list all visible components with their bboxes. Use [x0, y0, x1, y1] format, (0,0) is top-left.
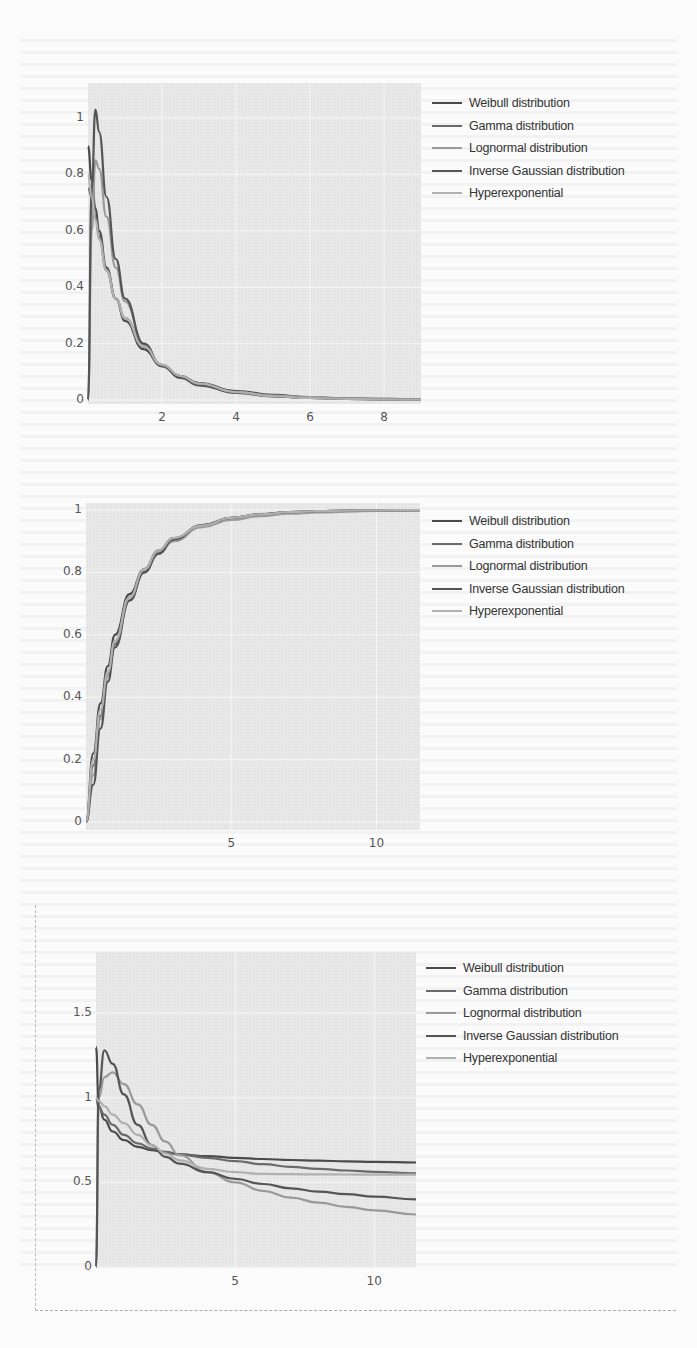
x-tick-label: 4: [221, 410, 251, 424]
chart-1-legend: Weibull distribution Gamma distribution …: [432, 92, 624, 205]
plot-svg: [86, 503, 420, 830]
y-tick-label: 0.4: [52, 689, 82, 703]
plot-area[interactable]: [86, 503, 420, 830]
legend-label: Lognormal distribution: [463, 1006, 582, 1020]
legend-item-hyperexponential[interactable]: Hyperexponential: [426, 1047, 618, 1070]
plot-area[interactable]: [96, 952, 416, 1268]
legend-line-icon: [426, 990, 456, 992]
y-tick-label: 1: [52, 502, 82, 516]
series-line-inverse-gaussian-distribution[interactable]: [88, 110, 421, 401]
y-tick-label: 1.5: [62, 1005, 92, 1019]
legend-item-inverse-gaussian[interactable]: Inverse Gaussian distribution: [432, 578, 624, 601]
legend-item-hyperexponential[interactable]: Hyperexponential: [432, 182, 624, 205]
y-tick-label: 0.8: [52, 564, 82, 578]
legend-line-icon: [432, 192, 462, 194]
legend-item-gamma[interactable]: Gamma distribution: [426, 980, 618, 1003]
legend-line-icon: [432, 102, 462, 104]
legend-line-icon: [432, 565, 462, 567]
series-line-gamma-distribution[interactable]: [86, 510, 420, 822]
x-tick-label: 5: [220, 1274, 250, 1288]
legend-item-gamma[interactable]: Gamma distribution: [432, 115, 624, 138]
series-line-inverse-gaussian-distribution[interactable]: [86, 510, 420, 822]
legend-label: Weibull distribution: [469, 514, 570, 528]
y-tick-label: 0.5: [62, 1174, 92, 1188]
series-line-lognormal-distribution[interactable]: [86, 511, 420, 822]
y-tick-label: 0.4: [54, 279, 84, 293]
legend-line-icon: [426, 1012, 456, 1014]
plot-area[interactable]: [88, 83, 421, 404]
series-line-weibull-distribution[interactable]: [88, 146, 421, 399]
legend-item-inverse-gaussian[interactable]: Inverse Gaussian distribution: [426, 1025, 618, 1048]
legend-label: Hyperexponential: [469, 186, 563, 200]
plot-svg: [96, 952, 416, 1268]
y-tick-label: 0: [54, 392, 84, 406]
legend-label: Weibull distribution: [469, 96, 570, 110]
legend-line-icon: [432, 610, 462, 612]
series-line-lognormal-distribution[interactable]: [96, 1072, 416, 1267]
x-tick-label: 8: [369, 410, 399, 424]
x-tick-label: 10: [359, 1274, 389, 1288]
legend-label: Lognormal distribution: [469, 141, 588, 155]
series-line-weibull-distribution[interactable]: [86, 510, 420, 822]
legend-label: Hyperexponential: [463, 1051, 557, 1065]
legend-item-lognormal[interactable]: Lognormal distribution: [432, 555, 624, 578]
legend-line-icon: [426, 967, 456, 969]
legend-line-icon: [432, 147, 462, 149]
legend-label: Weibull distribution: [463, 961, 564, 975]
legend-label: Inverse Gaussian distribution: [469, 582, 624, 596]
y-tick-label: 0.6: [52, 627, 82, 641]
legend-item-gamma[interactable]: Gamma distribution: [432, 533, 624, 556]
y-tick-label: 1: [54, 110, 84, 124]
legend-line-icon: [432, 520, 462, 522]
series-line-lognormal-distribution[interactable]: [88, 160, 421, 400]
legend-line-icon: [432, 170, 462, 172]
x-tick-label: 10: [361, 836, 391, 850]
legend-label: Gamma distribution: [463, 984, 568, 998]
x-tick-label: 6: [295, 410, 325, 424]
y-tick-label: 0.6: [54, 223, 84, 237]
legend-item-weibull[interactable]: Weibull distribution: [426, 957, 618, 980]
x-tick-label: 2: [147, 410, 177, 424]
legend-item-lognormal[interactable]: Lognormal distribution: [432, 137, 624, 160]
y-tick-label: 0.2: [54, 336, 84, 350]
y-tick-label: 0.2: [52, 752, 82, 766]
y-tick-label: 1: [62, 1090, 92, 1104]
x-tick-label: 5: [216, 836, 246, 850]
legend-line-icon: [432, 543, 462, 545]
series-line-hyperexponential[interactable]: [86, 510, 420, 822]
series-line-gamma-distribution[interactable]: [88, 189, 421, 400]
legend-item-hyperexponential[interactable]: Hyperexponential: [432, 600, 624, 623]
legend-label: Hyperexponential: [469, 604, 563, 618]
legend-item-inverse-gaussian[interactable]: Inverse Gaussian distribution: [432, 160, 624, 183]
legend-line-icon: [426, 1057, 456, 1059]
legend-label: Gamma distribution: [469, 537, 574, 551]
legend-line-icon: [432, 588, 462, 590]
legend-item-weibull[interactable]: Weibull distribution: [432, 92, 624, 115]
legend-label: Gamma distribution: [469, 119, 574, 133]
legend-label: Lognormal distribution: [469, 559, 588, 573]
chart-3-legend: Weibull distribution Gamma distribution …: [426, 957, 618, 1070]
legend-label: Inverse Gaussian distribution: [463, 1029, 618, 1043]
legend-item-lognormal[interactable]: Lognormal distribution: [426, 1002, 618, 1025]
legend-line-icon: [426, 1035, 456, 1037]
legend-label: Inverse Gaussian distribution: [469, 164, 624, 178]
legend-item-weibull[interactable]: Weibull distribution: [432, 510, 624, 533]
chart-2-legend: Weibull distribution Gamma distribution …: [432, 510, 624, 623]
plot-svg: [88, 83, 421, 404]
y-tick-label: 0: [62, 1259, 92, 1273]
y-tick-label: 0: [52, 814, 82, 828]
y-tick-label: 0.8: [54, 166, 84, 180]
legend-line-icon: [432, 125, 462, 127]
